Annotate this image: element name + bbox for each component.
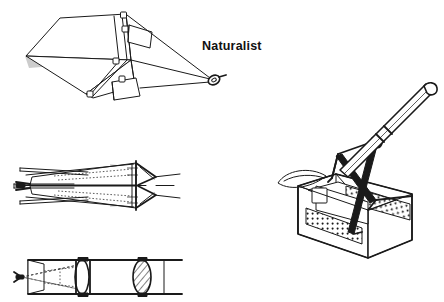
figure-fast: Fast xyxy=(14,252,214,300)
naturalist-dredge-icon xyxy=(14,8,229,108)
figure-irish: Irish xyxy=(14,155,214,217)
figure-naturalist: Naturalist xyxy=(14,8,229,108)
ctgref-box-sampler-icon xyxy=(276,82,444,257)
label-naturalist: Naturalist xyxy=(202,39,262,53)
diagram-canvas: Naturalist xyxy=(0,0,444,302)
figure-ctgref: CTGREF xyxy=(276,82,444,257)
irish-trawl-icon xyxy=(14,155,214,217)
fast-cylinder-icon xyxy=(14,252,214,300)
